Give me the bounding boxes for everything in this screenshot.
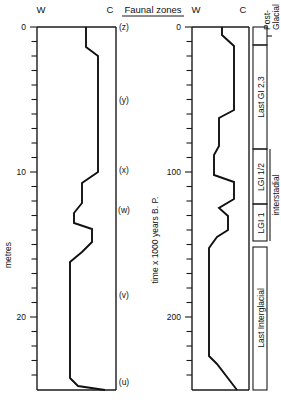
bracket-annotations: Post- Glacial interstadial bbox=[262, 4, 281, 241]
faunal-zone-z: (z) bbox=[119, 22, 129, 32]
stage-box-column: Last GI 2,3 LGI 1/2 LGI 1 Last Interglac… bbox=[253, 27, 267, 390]
bracket-label-interstadial: interstadial bbox=[271, 174, 281, 215]
left-tick-label-20: 20 bbox=[17, 312, 27, 322]
stage-label-last-gi-23: Last GI 2,3 bbox=[256, 76, 266, 118]
faunal-zone-x: (x) bbox=[119, 165, 129, 175]
left-cold-label: C bbox=[107, 4, 114, 15]
right-tick-label-0: 0 bbox=[176, 22, 181, 32]
faunal-zone-w: (w) bbox=[118, 205, 130, 215]
left-tick-label-10: 10 bbox=[17, 167, 27, 177]
left-tick-label-0: 0 bbox=[21, 22, 26, 32]
figure-container: W C bbox=[0, 0, 281, 405]
right-warm-label: W bbox=[192, 4, 201, 15]
right-tick-label-100: 100 bbox=[167, 167, 181, 177]
right-cold-label: C bbox=[240, 4, 247, 15]
stage-label-lgi-1-2: LGI 1/2 bbox=[256, 163, 266, 191]
left-temperature-curve bbox=[70, 27, 105, 390]
left-axis-ticks bbox=[30, 27, 37, 375]
right-temperature-curve bbox=[209, 27, 237, 390]
faunal-zone-u: (u) bbox=[119, 377, 130, 387]
faunal-zone-y: (y) bbox=[119, 95, 129, 105]
stratigraphic-temperature-figure: W C bbox=[0, 0, 281, 405]
right-axis-title: time x 1000 years B. P. bbox=[150, 197, 160, 284]
bracket-label-glacial: Glacial bbox=[271, 4, 281, 30]
stage-label-lgi-1: LGI 1 bbox=[256, 212, 266, 233]
right-tick-label-200: 200 bbox=[167, 312, 181, 322]
stage-label-last-interglacial: Last Interglacial bbox=[256, 288, 266, 348]
right-panel: W C bbox=[150, 4, 281, 390]
left-axis-title: metres bbox=[3, 242, 13, 268]
faunal-zone-v: (v) bbox=[119, 290, 129, 300]
faunal-zones-title: Faunal zones bbox=[124, 4, 181, 15]
left-warm-label: W bbox=[37, 4, 46, 15]
right-axis-ticks bbox=[185, 27, 192, 375]
